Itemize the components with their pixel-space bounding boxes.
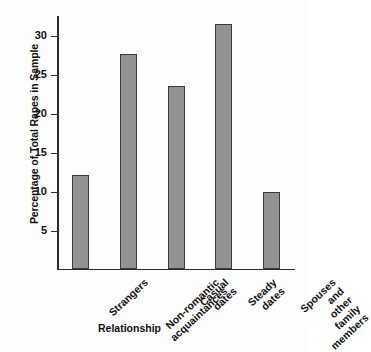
bar [263,192,280,269]
y-tick-label: 20 [35,107,47,120]
y-tick-label: 10 [35,185,47,198]
y-axis-title: Percentage of Total Rapes in Sample [28,14,40,254]
bar [168,86,185,269]
bar [215,24,232,269]
y-tick-label: 30 [35,29,47,42]
y-tick-5: 5 [51,231,57,233]
y-tick-25: 25 [51,75,57,77]
y-tick-10: 10 [51,192,57,194]
bar [120,54,137,268]
category-label: Spouses and other family members [296,276,371,352]
y-tick-label: 25 [35,68,47,81]
y-axis-line [57,16,59,270]
category-label: Strangers [106,276,150,318]
y-tick-20: 20 [51,114,57,116]
y-tick-label: 15 [35,146,47,159]
plot-area: 51015202530 [57,16,295,270]
y-tick-15: 15 [51,153,57,155]
bar [72,175,89,269]
category-label: Steady dates [245,276,287,317]
y-tick-label: 5 [41,224,47,237]
x-axis-line [57,269,295,271]
y-tick-30: 30 [51,36,57,38]
x-axis-title: Relationship [98,322,161,334]
